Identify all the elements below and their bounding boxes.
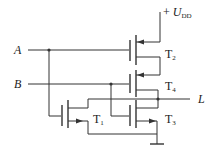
t1-label: T1 <box>93 113 104 129</box>
t1-sub: 1 <box>100 119 104 127</box>
supply-label: + UDD <box>163 6 192 22</box>
t1-arrow-icon <box>76 119 83 124</box>
t4-label: T4 <box>165 80 176 96</box>
t4-arrow-icon <box>137 73 144 78</box>
t3-sub: 3 <box>172 119 176 127</box>
circuit-diagram: + UDD A B L T2 T4 T1 T3 <box>0 0 216 159</box>
input-b-label: B <box>14 78 21 90</box>
t2-label: T2 <box>165 48 176 64</box>
circuit-wires <box>0 0 216 159</box>
input-a-label: A <box>14 44 21 56</box>
t3-label: T3 <box>165 113 176 129</box>
supply-sign: + <box>163 5 170 19</box>
t4-sub: 4 <box>172 86 176 94</box>
supply-subscript: DD <box>181 12 191 20</box>
t2-arrow-icon <box>137 40 144 45</box>
t2-sub: 2 <box>172 54 176 62</box>
output-l-label: L <box>198 93 205 105</box>
t3-arrow-icon <box>149 119 156 124</box>
